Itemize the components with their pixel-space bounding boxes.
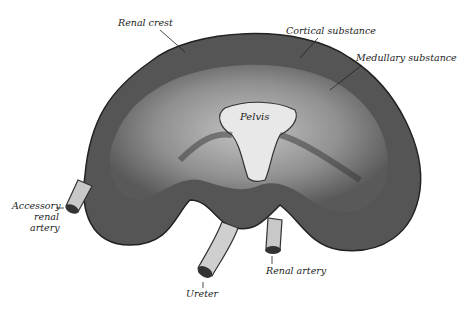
label-accessory-renal-artery-line3: artery	[30, 222, 60, 233]
label-accessory-renal-artery-line1: Accessory	[12, 200, 61, 211]
label-cortical-substance: Cortical substance	[286, 25, 376, 36]
label-accessory-renal-artery-line2: renal	[34, 211, 59, 222]
label-medullary-substance: Medullary substance	[356, 52, 457, 63]
label-pelvis: Pelvis	[240, 111, 269, 122]
renal-artery-vessel	[266, 218, 282, 250]
label-ureter: Ureter	[186, 288, 218, 299]
kidney-section-illustration	[0, 0, 464, 310]
label-renal-crest: Renal crest	[118, 17, 173, 28]
label-renal-artery: Renal artery	[266, 265, 326, 276]
